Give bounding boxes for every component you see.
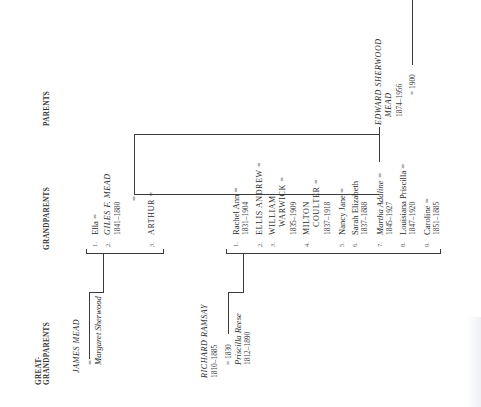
header-grandparents: GRANDPARENTS [44, 187, 51, 250]
mead-child-3-name: ARTHUR = [148, 191, 156, 235]
ramsay-connector-horizontal [243, 253, 244, 293]
giles-to-junction-horizontal [134, 134, 135, 195]
page-edge-shadow [467, 317, 481, 407]
ramsay-child-2-number: 2. [257, 242, 264, 247]
ramsay-child-9-dates: 1851–1885 [433, 202, 440, 235]
header-parents: PARENTS [44, 91, 51, 126]
genealogy-page: GREAT- GRANDPARENTS GRANDPARENTS PARENTS… [0, 0, 481, 407]
mead-connector-horizontal [103, 253, 104, 293]
priscilla-reese-name: Priscilla Reese [234, 313, 243, 365]
ramsay-child-7-dates: 1845–1927 [386, 202, 393, 235]
ramsay-child-4-dates: 1837–1918 [324, 202, 331, 235]
edward-marriage-line [412, 0, 413, 65]
edward-name-line1: EDWARD SHERWOOD [375, 38, 383, 125]
mead-children-bracket-spine [86, 253, 164, 254]
header-great-grandparents-line2: GRANDPARENTS [44, 322, 52, 385]
ramsay-child-4-name: MILTON [303, 201, 311, 235]
ramsay-child-1-name: Rachel Ann = [232, 188, 241, 235]
edward-dates: 1874–1956 [396, 84, 403, 117]
ramsay-child-1-dates: 1831–1904 [242, 202, 249, 235]
ramsay-child-4-name-line2: COULTER = [313, 179, 321, 227]
ramsay-child-5-number: 5. [339, 242, 346, 247]
richard-ramsay-dates: 1810–1885 [211, 345, 218, 378]
ramsay-bracket-bottom-tick [440, 249, 441, 254]
ramsay-child-8-number: 8. [400, 242, 407, 247]
ramsay-children-bracket-spine [226, 253, 441, 254]
mead-child-2-number: 2. [105, 242, 112, 247]
ramsay-child-8-dates: 1847–1920 [409, 202, 416, 235]
priscilla-reese-dates: 1812–1890 [244, 332, 251, 365]
ramsay-child-5-name: Nancy Jane = [338, 188, 347, 235]
ramsay-child-6-number: 6. [352, 242, 359, 247]
richard-ramsay-name: RICHARD RAMSAY [201, 304, 209, 378]
ramsay-marriage-line [228, 292, 229, 334]
edward-marriage: = 1900 [409, 74, 416, 95]
giles-marriage-symbol: = [130, 196, 139, 201]
mead-bracket-bottom-tick [163, 249, 164, 254]
ramsay-connector-vertical [228, 292, 244, 293]
edward-name-line2: MEAD [385, 92, 393, 117]
ramsay-child-9-number: 9. [424, 242, 431, 247]
mead-child-3-number: 3. [149, 242, 156, 247]
mead-bracket-top-tick [86, 249, 87, 254]
ramsay-child-2-name: ELLIS ANDREW = [256, 162, 264, 235]
ramsay-child-3-name: WILLIAM [269, 195, 277, 235]
ramsay-child-9-name: Caroline = [423, 198, 432, 235]
mead-child-1-name: Ella = [91, 214, 100, 235]
ramsay-bracket-top-tick [226, 249, 227, 254]
ramsay-child-7-number: 7. [377, 242, 384, 247]
james-mead-name: JAMES MEAD [73, 319, 81, 373]
mead-child-1-number: 1. [92, 242, 99, 247]
mead-child-2-dates: 1841–1880 [114, 202, 121, 235]
margaret-sherwood-name: Margaret Sherwood [94, 296, 103, 365]
ramsay-child-4-number: 4. [304, 242, 311, 247]
ramsay-child-6-dates: 1837–1888 [361, 202, 368, 235]
ramsay-child-1-number: 1. [233, 242, 240, 247]
header-great-grandparents: GREAT- GRANDPARENTS [36, 322, 51, 385]
edward-connector [379, 127, 380, 135]
mead-marriage-line [89, 293, 90, 359]
ramsay-child-6-name: Sarah Elizabeth [351, 181, 360, 235]
ramsay-child-3-name-line2: WARWICK = [279, 176, 287, 227]
mead-connector-vertical [89, 292, 104, 293]
ramsay-child-3-dates: 1835–1909 [290, 202, 297, 235]
ramsay-child-3-number: 3. [270, 242, 277, 247]
ramsay-child-8-name: Louisiana Priscilla = [399, 164, 408, 235]
mead-child-2-name: GILES F. MEAD [104, 173, 112, 235]
parents-junction-vertical [134, 134, 379, 135]
ramsay-marriage: = 1830 [225, 344, 232, 365]
martha-to-junction-horizontal [379, 134, 380, 162]
ramsay-child-7-name: Martha Adaline = [376, 173, 385, 235]
